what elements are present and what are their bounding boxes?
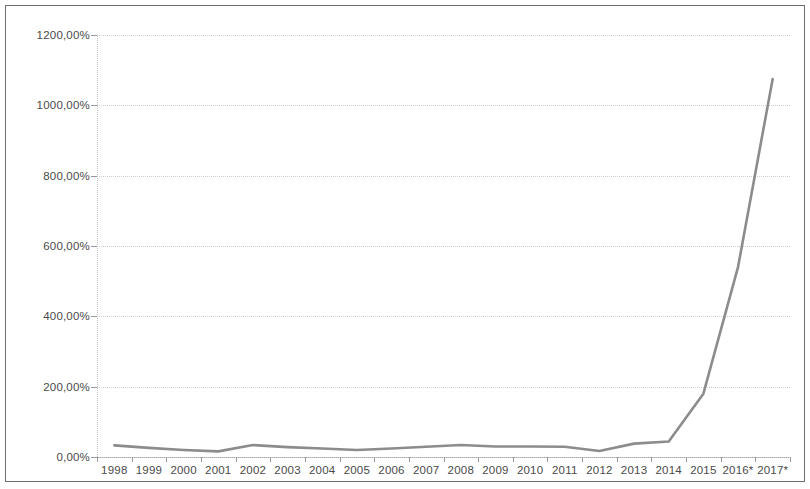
x-axis-tick-label: 2009 (482, 464, 508, 476)
y-axis-tick-label: 1200,00% (37, 29, 90, 41)
gridline (97, 176, 790, 177)
x-axis-tick-mark (755, 457, 756, 462)
x-axis-tick-label: 2012 (586, 464, 612, 476)
y-axis-tick-label: 200,00% (43, 381, 90, 393)
x-axis-tick-label: 2010 (517, 464, 543, 476)
x-axis-tick-mark (790, 457, 791, 462)
x-axis-tick-mark (201, 457, 202, 462)
x-axis-tick-mark (374, 457, 375, 462)
x-axis-tick-mark (305, 457, 306, 462)
gridline (97, 246, 790, 247)
x-axis-tick-label: 2016* (722, 464, 753, 476)
x-axis-tick-label: 2014 (656, 464, 682, 476)
x-axis-tick-mark (651, 457, 652, 462)
x-axis-tick-mark (721, 457, 722, 462)
y-axis-tick-label: 800,00% (43, 170, 90, 182)
x-axis-tick-label: 2003 (274, 464, 300, 476)
x-axis-tick-mark (409, 457, 410, 462)
x-axis-tick-mark (547, 457, 548, 462)
x-axis-tick-mark (166, 457, 167, 462)
x-axis-tick-label: 2004 (309, 464, 335, 476)
x-axis-tick-label: 2006 (378, 464, 404, 476)
x-axis-tick-label: 2001 (205, 464, 231, 476)
x-axis-tick-label: 2005 (344, 464, 370, 476)
y-axis-tick-label: 1000,00% (37, 99, 90, 111)
x-axis-tick-label: 2008 (448, 464, 474, 476)
x-axis-tick-mark (444, 457, 445, 462)
x-axis-tick-label: 2002 (240, 464, 266, 476)
gridline (97, 387, 790, 388)
x-axis-tick-label: 2013 (621, 464, 647, 476)
gridline (97, 105, 790, 106)
chart-figure: 0,00%200,00%400,00%600,00%800,00%1000,00… (0, 0, 810, 489)
x-axis-tick-mark (478, 457, 479, 462)
x-axis-tick-label: 1998 (101, 464, 127, 476)
y-axis-tick-labels: 0,00%200,00%400,00%600,00%800,00%1000,00… (0, 0, 90, 489)
x-axis-tick-mark (97, 457, 98, 462)
x-axis-tick-label: 2015 (690, 464, 716, 476)
x-axis-tick-mark (513, 457, 514, 462)
gridline (97, 35, 790, 36)
gridline (97, 316, 790, 317)
x-axis-tick-label: 2000 (170, 464, 196, 476)
x-axis-tick-label: 2017* (757, 464, 788, 476)
x-axis-tick-mark (132, 457, 133, 462)
x-axis-tick-label: 2011 (552, 464, 578, 476)
y-axis-tick-mark (91, 35, 97, 36)
x-axis-tick-mark (582, 457, 583, 462)
y-axis-tick-label: 600,00% (43, 240, 90, 252)
y-axis-tick-mark (91, 105, 97, 106)
x-axis-tick-mark (617, 457, 618, 462)
x-axis-tick-mark (236, 457, 237, 462)
y-axis-tick-mark (91, 316, 97, 317)
y-axis-tick-mark (91, 246, 97, 247)
y-axis-tick-mark (91, 176, 97, 177)
x-axis-tick-mark (340, 457, 341, 462)
x-axis-tick-mark (270, 457, 271, 462)
y-axis-tick-label: 400,00% (43, 310, 90, 322)
y-axis-tick-label: 0,00% (56, 451, 90, 463)
x-axis-tick-mark (686, 457, 687, 462)
x-axis-tick-label: 2007 (413, 464, 439, 476)
x-axis-tick-label: 1999 (136, 464, 162, 476)
y-axis-tick-mark (91, 387, 97, 388)
